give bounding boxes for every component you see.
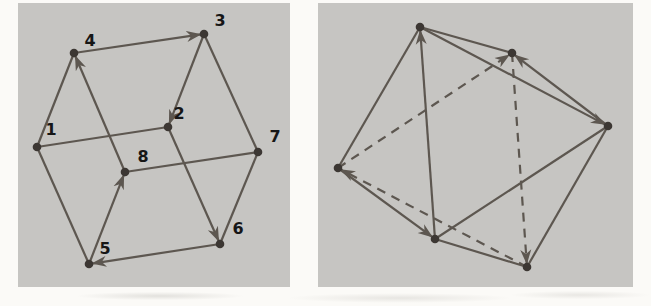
edge-1-2: [37, 127, 168, 147]
cube-graph-panel: 12345678: [18, 3, 290, 287]
vertex-label-4: 4: [84, 31, 95, 50]
directed-edge-UR-BR: [512, 53, 527, 264]
vertex-dot-BR: [523, 263, 532, 272]
cube-graph-svg: 12345678: [18, 3, 290, 287]
vertex-dot-R: [604, 122, 613, 131]
edge-L-T: [338, 27, 420, 168]
vertex-dot-L: [334, 164, 343, 173]
edge-1-5: [37, 147, 89, 264]
page-smudge-strip: [0, 288, 651, 306]
vertex-label-2: 2: [173, 104, 184, 123]
vertex-dot-UR: [508, 49, 517, 58]
vertex-label-1: 1: [45, 120, 56, 139]
octahedron-graph-svg: [318, 3, 633, 287]
directed-edge-8-4: [75, 56, 125, 172]
vertex-label-7: 7: [269, 127, 280, 146]
vertex-label-3: 3: [214, 11, 225, 30]
vertex-dot-5: [85, 260, 94, 269]
directed-edge-BC-T: [420, 30, 435, 239]
vertex-dot-1: [33, 143, 42, 152]
edge-3-7: [204, 34, 258, 152]
vertex-dot-2: [164, 123, 173, 132]
vertex-dot-7: [254, 148, 263, 157]
vertex-dot-8: [121, 168, 130, 177]
octahedron-graph-panel: [318, 3, 633, 287]
edge-T-UR: [420, 27, 512, 53]
vertex-dot-4: [70, 49, 79, 58]
directed-edge-L-BC: [338, 168, 433, 237]
vertex-dot-6: [216, 240, 225, 249]
vertex-dot-BC: [431, 235, 440, 244]
directed-edge-2-6: [168, 127, 219, 241]
vertex-label-5: 5: [99, 239, 110, 258]
vertex-dot-3: [200, 30, 209, 39]
directed-edge-R-UR: [514, 55, 608, 126]
vertex-label-8: 8: [137, 147, 148, 166]
edge-R-BR: [527, 126, 608, 267]
directed-edge-6-5: [92, 244, 220, 264]
vertex-dot-T: [416, 23, 425, 32]
vertex-label-6: 6: [232, 219, 243, 238]
